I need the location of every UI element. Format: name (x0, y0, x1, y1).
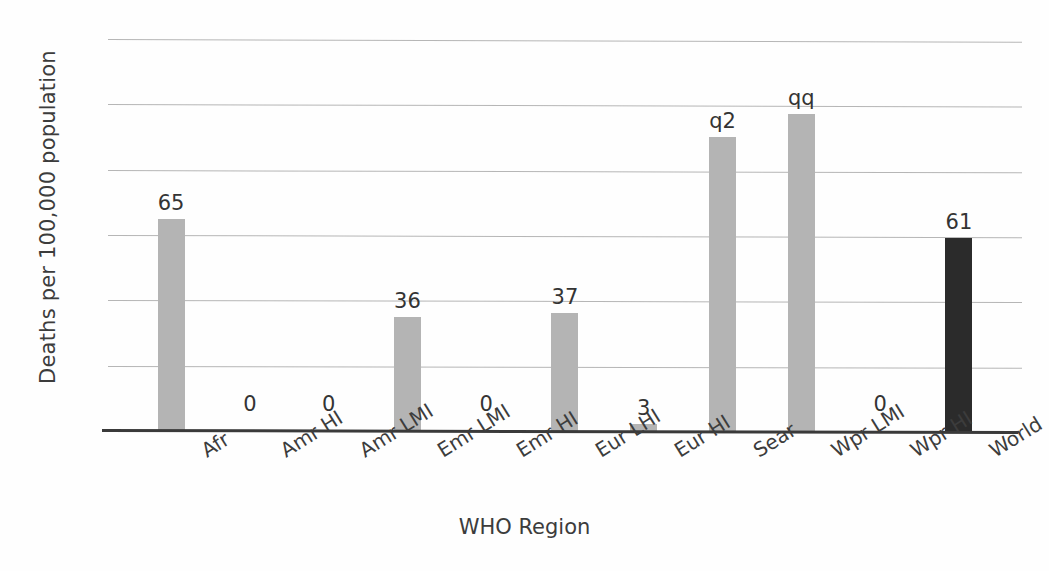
bar-slot: 0 (841, 39, 920, 431)
x-axis-tick-labels: AfrAmr HIAmr LMIEmr LMIEmr HIEur LHIEur … (108, 436, 1022, 516)
bar-slot: q2 (683, 39, 762, 431)
bar-series: 6500360373q2qq061 (108, 39, 1022, 431)
bar-slot: 61 (920, 39, 999, 431)
bar-slot: 0 (289, 39, 368, 431)
x-tick-label: Eur HI (670, 442, 683, 462)
x-tick-label: Emr LMI (433, 442, 446, 462)
bar-value-label: 36 (394, 291, 421, 312)
bar-slot: 0 (447, 39, 526, 431)
plot-area: 020406080100120 6500360373q2qq061 (108, 39, 1022, 431)
x-tick-label: Afr (197, 442, 210, 462)
bar-value-label: 0 (243, 394, 256, 415)
x-tick-label: Eur LHI (591, 442, 604, 462)
x-tick-label: World (985, 442, 998, 462)
bar-value-label: qq (788, 88, 815, 109)
bar[interactable]: 65 (158, 219, 185, 431)
x-tick-label: Wpr LMI (827, 442, 840, 462)
bar-value-label: 37 (552, 287, 579, 308)
bar-slot: 65 (132, 39, 211, 431)
x-tick-label: Amr LMI (355, 442, 368, 462)
bar-value-label: q2 (709, 111, 736, 132)
x-tick-label: Wpr HI (906, 442, 919, 462)
x-tick-label: Emr HI (512, 442, 525, 462)
bar-slot: 37 (526, 39, 605, 431)
bar-value-label: 61 (946, 212, 973, 233)
bar-slot: 0 (210, 39, 289, 431)
bar-value-label: 65 (158, 193, 185, 214)
y-axis-title: Deaths per 100,000 population (36, 17, 60, 417)
bar-slot: 3 (604, 39, 683, 431)
bar[interactable]: qq (788, 114, 815, 431)
bar-chart: Deaths per 100,000 population 0204060801… (0, 0, 1049, 571)
x-axis-title: WHO Region (0, 515, 1049, 539)
bar[interactable]: 61 (945, 238, 972, 431)
bar[interactable]: q2 (709, 137, 736, 431)
bar-slot: 36 (368, 39, 447, 431)
x-tick-label: Amr HI (276, 442, 289, 462)
bar-slot: qq (762, 39, 841, 431)
x-tick-label: Sear (749, 442, 762, 462)
